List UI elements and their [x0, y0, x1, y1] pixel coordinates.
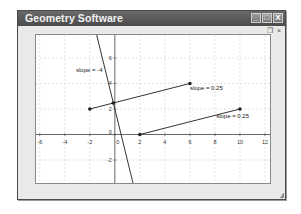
app-window: Geometry Software _ □ X _ ❐ × -6-4-20246…	[17, 10, 286, 200]
close-button[interactable]: X	[273, 13, 283, 23]
y-tick-label: 0	[109, 129, 112, 135]
slope-label: slope = 0.25	[216, 113, 250, 119]
x-tick-label: 10	[237, 139, 243, 145]
y-tick-label: -2	[107, 157, 112, 163]
graph-canvas[interactable]: -6-4-20246810126420-2slope = -4slope = 0…	[35, 34, 271, 184]
graph-svg[interactable]: -6-4-20246810126420-2slope = -4slope = 0…	[36, 35, 270, 183]
point[interactable]	[88, 107, 92, 111]
doc-minimize-button[interactable]: _	[258, 27, 264, 34]
point[interactable]	[238, 107, 242, 111]
x-tick-label: 6	[188, 139, 191, 145]
slope-label: slope = -4	[76, 67, 103, 73]
y-tick-label: 2	[109, 106, 112, 112]
x-tick-label: 8	[213, 139, 216, 145]
x-tick-label: -6	[37, 139, 42, 145]
x-tick-label: -2	[87, 139, 92, 145]
window-title: Geometry Software	[25, 12, 123, 24]
point[interactable]	[112, 101, 116, 105]
document-controls: _ ❐ ×	[258, 27, 282, 34]
maximize-button[interactable]: □	[262, 13, 272, 23]
minimize-button[interactable]: _	[251, 13, 261, 23]
x-tick-label: 2	[138, 139, 141, 145]
x-tick-label: 4	[163, 139, 166, 145]
point[interactable]	[138, 133, 142, 137]
x-tick-label: 0	[116, 139, 119, 145]
x-tick-label: 12	[262, 139, 268, 145]
doc-close-button[interactable]: ×	[276, 27, 282, 34]
title-bar[interactable]: Geometry Software _ □ X	[18, 11, 285, 26]
y-tick-label: 6	[109, 55, 112, 61]
x-tick-label: -4	[62, 139, 67, 145]
window-controls: _ □ X	[251, 13, 283, 23]
resize-grip[interactable]	[279, 193, 284, 198]
slope-label: slope = 0.25	[190, 85, 224, 91]
doc-restore-button[interactable]: ❐	[267, 27, 273, 34]
